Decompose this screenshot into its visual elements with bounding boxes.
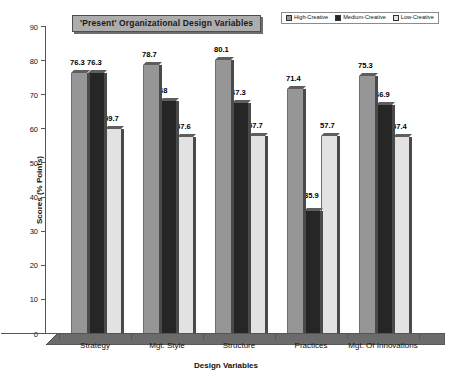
bar-data-label: 57.7 <box>319 122 336 131</box>
bar-front-face <box>160 101 176 333</box>
bar-side-face <box>231 60 234 333</box>
y-axis-tick: 60 <box>41 128 45 129</box>
legend-item-high-creative[interactable]: High-Creative <box>286 15 328 21</box>
bar-front-face <box>215 60 231 333</box>
bar[interactable] <box>359 76 375 333</box>
bar-side-face <box>104 73 107 333</box>
bar-side-face <box>248 103 251 333</box>
x-axis-tick <box>59 334 60 339</box>
bar-data-label: 75.3 <box>357 62 374 71</box>
x-axis-line <box>1 333 411 334</box>
legend-label-medium-creative: Medium-Creative <box>343 15 386 21</box>
y-axis-tick-label: 50 <box>30 158 38 167</box>
legend-swatch-medium-creative <box>335 15 341 21</box>
y-axis-tick-label: 60 <box>30 124 38 133</box>
bar[interactable] <box>71 73 87 333</box>
bar[interactable] <box>249 136 265 333</box>
x-axis-category-label: Practices <box>295 341 328 350</box>
bar-data-label: 76.3 <box>86 59 103 68</box>
y-axis-tick-label: 40 <box>30 193 38 202</box>
bar[interactable] <box>143 65 159 333</box>
legend-item-medium-creative[interactable]: Medium-Creative <box>335 15 386 21</box>
bar-data-label: 71.4 <box>285 75 302 84</box>
bar-data-label: 76.3 <box>69 59 86 68</box>
bar-side-face <box>265 136 268 333</box>
y-axis-tick: 50 <box>41 162 45 163</box>
bar-front-face <box>143 65 159 333</box>
bar[interactable] <box>215 60 231 333</box>
bar[interactable] <box>393 137 409 333</box>
x-axis-tick <box>203 334 204 339</box>
legend-swatch-low-creative <box>393 15 399 21</box>
bar-side-face <box>159 65 162 333</box>
legend-label-low-creative: Low-Creative <box>401 15 434 21</box>
y-axis-tick: 70 <box>41 94 45 95</box>
bar-front-face <box>287 89 303 333</box>
bar[interactable] <box>105 129 121 333</box>
bar-front-face <box>359 76 375 333</box>
x-axis-tick <box>347 334 348 339</box>
bar-data-label: 78.7 <box>141 51 158 60</box>
bar-side-face <box>87 73 90 333</box>
x-axis-category-label: Mgt. Style <box>149 341 185 350</box>
y-axis-tick: 30 <box>41 231 45 232</box>
bar-front-face <box>177 137 193 333</box>
bar[interactable] <box>304 211 320 333</box>
y-axis-tick: 40 <box>41 197 45 198</box>
y-axis-tick-label: 10 <box>30 295 38 304</box>
y-axis-tick-label: 30 <box>30 227 38 236</box>
bar-side-face <box>392 105 395 333</box>
y-axis-tick-label: 20 <box>30 261 38 270</box>
x-axis-tick <box>275 334 276 339</box>
x-axis-category-label: Structure <box>223 341 255 350</box>
y-axis-tick: 90 <box>41 26 45 27</box>
bar-side-face <box>176 101 179 333</box>
y-axis-tick: 20 <box>41 265 45 266</box>
legend-swatch-high-creative <box>286 15 292 21</box>
bar-side-face <box>121 129 124 333</box>
bar-front-face <box>71 73 87 333</box>
x-axis-category-label: Strategy <box>80 341 110 350</box>
bar-front-face <box>88 73 104 333</box>
bar[interactable] <box>321 136 337 333</box>
x-axis-tick <box>419 334 420 339</box>
bar-side-face <box>320 211 323 333</box>
chart-legend: High-Creative Medium-Creative Low-Creati… <box>281 12 439 24</box>
plot-area: 9080706050403020100 76.376.359.778.76857… <box>45 26 445 333</box>
bar-front-face <box>376 105 392 333</box>
bar-data-label: 80.1 <box>213 46 230 55</box>
bar[interactable] <box>232 103 248 333</box>
bar-side-face <box>409 137 412 333</box>
bar-front-face <box>304 211 320 333</box>
bar-front-face <box>105 129 121 333</box>
bar-front-face <box>232 103 248 333</box>
bar[interactable] <box>376 105 392 333</box>
bar[interactable] <box>160 101 176 333</box>
bar-side-face <box>375 76 378 333</box>
x-axis-category-label: Mgt. Of Innovations <box>348 341 417 350</box>
legend-label-high-creative: High-Creative <box>294 15 328 21</box>
bar-side-face <box>337 136 340 333</box>
y-axis-tick: 80 <box>41 60 45 61</box>
y-axis-tick-label: 70 <box>30 90 38 99</box>
y-axis-tick-label: 80 <box>30 56 38 65</box>
bar-side-face <box>303 89 306 333</box>
bar-front-face <box>321 136 337 333</box>
bar-side-face <box>193 137 196 333</box>
x-axis-tick <box>131 334 132 339</box>
legend-item-low-creative[interactable]: Low-Creative <box>393 15 434 21</box>
y-axis-line <box>45 26 46 333</box>
bar[interactable] <box>287 89 303 333</box>
bar-front-face <box>393 137 409 333</box>
bar-front-face <box>249 136 265 333</box>
y-axis-tick: 10 <box>41 299 45 300</box>
bar-chart: 'Present' Organizational Design Variable… <box>0 0 452 379</box>
y-axis-tick-label: 90 <box>30 22 38 31</box>
bar[interactable] <box>177 137 193 333</box>
bar[interactable] <box>88 73 104 333</box>
x-axis-title: Design Variables <box>0 361 452 370</box>
